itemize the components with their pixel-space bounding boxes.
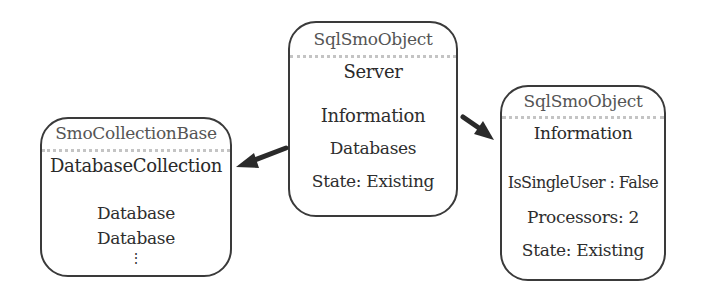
arrow-server-to-information [463,117,494,140]
edge-layer [0,0,703,302]
arrow-server-to-collection [236,148,286,168]
